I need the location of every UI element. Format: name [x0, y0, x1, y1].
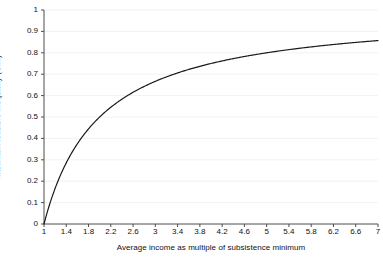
x-tick-label: 6.6 — [350, 228, 361, 236]
y-tick-label: 0.8 — [12, 49, 38, 57]
x-tick-label: 4.2 — [217, 228, 228, 236]
y-axis-title: Maximum feasible inequality (Gini) — [0, 5, 7, 229]
x-tick-label: 4.6 — [239, 228, 250, 236]
y-tick-label: 0.6 — [12, 92, 38, 100]
x-tick-label: 5.8 — [306, 228, 317, 236]
x-tick-label: 1.8 — [83, 228, 94, 236]
plot-area — [0, 0, 383, 262]
y-tick-label: 0.3 — [12, 156, 38, 164]
x-tick-label: 3.4 — [172, 228, 183, 236]
x-tick-label: 3.8 — [194, 228, 205, 236]
y-tick-label: 0.2 — [12, 177, 38, 185]
y-tick-label: 0 — [12, 220, 38, 228]
data-series-line — [44, 41, 378, 224]
y-axis-tick-labels: 00.10.20.30.40.50.60.70.80.91 — [12, 0, 38, 262]
y-tick-label: 0.9 — [12, 27, 38, 35]
y-tick-label: 0.1 — [12, 199, 38, 207]
x-tick-label: 1.4 — [61, 228, 72, 236]
y-tick-label: 0.5 — [12, 113, 38, 121]
x-tick-label: 3 — [153, 228, 157, 236]
x-axis-tick-labels: 11.41.82.22.633.43.84.24.655.45.86.26.67 — [0, 228, 383, 240]
gridlines — [44, 10, 378, 203]
x-tick-label: 5 — [264, 228, 268, 236]
y-tick-label: 0.7 — [12, 70, 38, 78]
x-tick-label: 1 — [42, 228, 46, 236]
x-axis-title: Average income as multiple of subsistenc… — [44, 243, 378, 252]
y-tick-label: 1 — [12, 6, 38, 14]
x-tick-label: 7 — [376, 228, 380, 236]
chart-figure: Maximum feasible inequality (Gini) 00.10… — [0, 0, 383, 262]
x-tick-label: 2.6 — [128, 228, 139, 236]
x-tick-label: 6.2 — [328, 228, 339, 236]
x-tick-label: 2.2 — [105, 228, 116, 236]
x-tick-label: 5.4 — [283, 228, 294, 236]
y-tick-label: 0.4 — [12, 134, 38, 142]
